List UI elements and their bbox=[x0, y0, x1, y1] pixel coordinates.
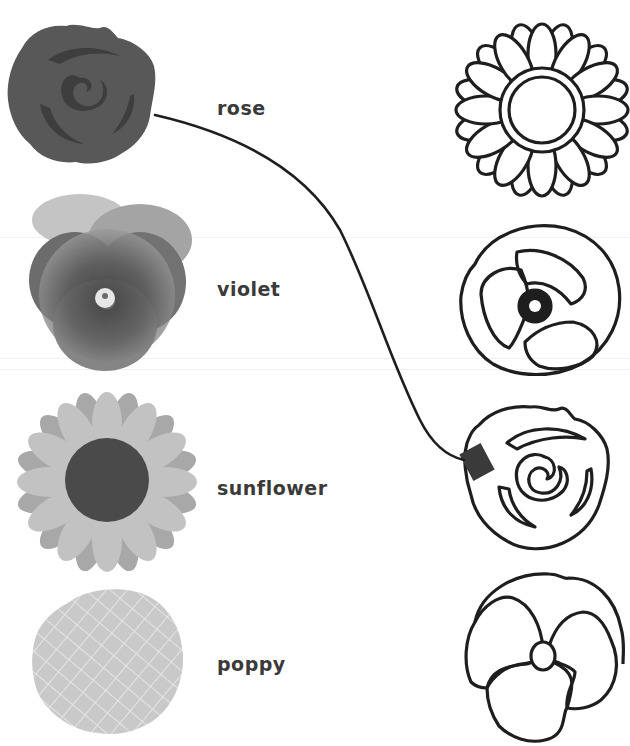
connection-line[interactable] bbox=[0, 0, 630, 746]
